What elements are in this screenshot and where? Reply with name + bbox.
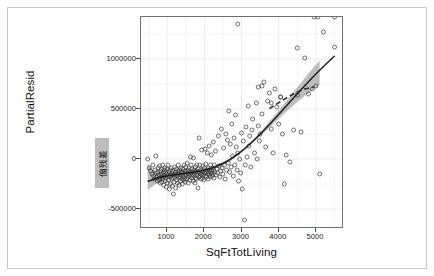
y-axis-annotation-highlight: 偏残差 [95,138,109,188]
plot-data-layer [141,17,342,227]
screenshot-page: -50000005000001000000 SqFtTotLiving Part… [0,0,434,276]
x-tick-label: 3000 [232,232,249,241]
y-tick-label: 500000 [111,104,136,113]
x-tick-mark [203,228,204,232]
y-tick-mark [136,58,140,59]
y-tick-mark [136,108,140,109]
plot-panel [140,16,343,228]
y-tick-mark [136,158,140,159]
x-tick-label: 4000 [269,232,286,241]
y-tick-label: -500000 [108,204,136,213]
x-tick-mark [166,228,167,232]
x-tick-mark [278,228,279,232]
y-tick-mark [136,208,140,209]
y-tick-label: 1000000 [106,54,136,63]
scatter-plot-figure: -50000005000001000000 SqFtTotLiving Part… [0,0,434,276]
x-tick-label: 5000 [306,232,323,241]
x-tick-mark [241,228,242,232]
x-tick-mark [315,228,316,232]
x-tick-label: 2000 [195,232,212,241]
x-tick-label: 1000 [158,232,175,241]
y-axis-title: PartialResid [24,42,36,162]
x-axis-title: SqFtTotLiving [140,246,343,258]
